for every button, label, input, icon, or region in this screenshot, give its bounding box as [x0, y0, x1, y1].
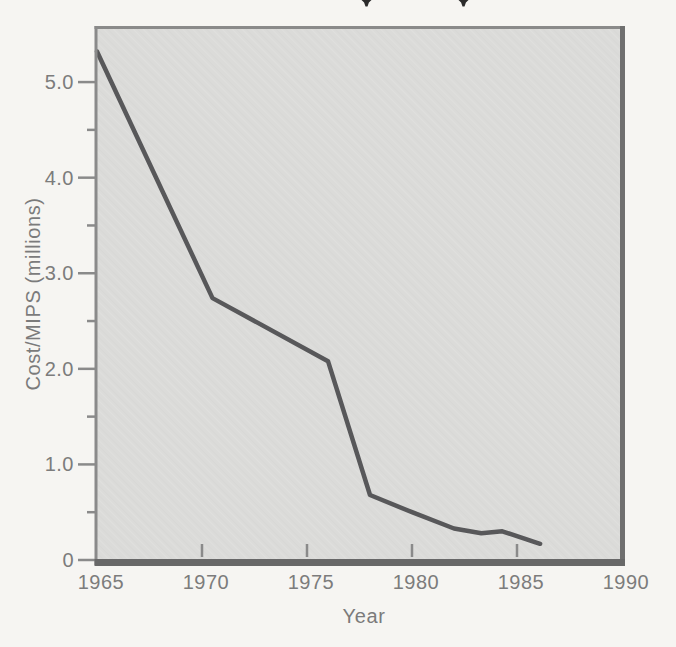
- x-tick-label: 1985: [498, 571, 545, 593]
- cost-mips-line-chart: 01.02.03.04.05.0196519701975198019851990: [0, 0, 676, 647]
- plot-area: [96, 27, 623, 561]
- x-tick-label: 1980: [393, 571, 440, 593]
- x-tick-label: 1965: [78, 571, 125, 593]
- x-tick-label: 1970: [183, 571, 230, 593]
- cropped-caption-remnant: [459, 0, 469, 7]
- y-tick-label: 3.0: [45, 262, 74, 284]
- scanned-figure-page: 01.02.03.04.05.0196519701975198019851990…: [0, 0, 676, 647]
- y-tick-label: 0: [62, 549, 74, 571]
- y-tick-label: 4.0: [45, 167, 74, 189]
- y-tick-label: 5.0: [45, 71, 74, 93]
- x-axis-title: Year: [343, 605, 386, 628]
- y-tick-label: 2.0: [45, 358, 74, 380]
- y-axis-title: Cost/MIPS (millions): [22, 197, 45, 390]
- x-tick-label: 1975: [288, 571, 335, 593]
- y-tick-label: 1.0: [45, 453, 74, 475]
- cropped-caption-remnant: [362, 0, 372, 7]
- x-tick-label: 1990: [603, 571, 650, 593]
